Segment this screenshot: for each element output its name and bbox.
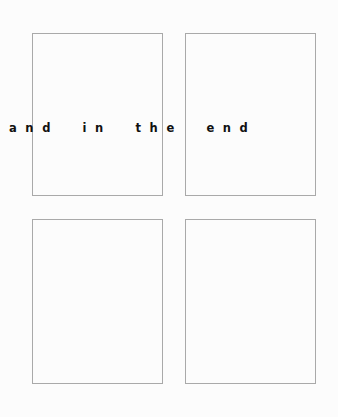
panel-top-right (185, 33, 316, 196)
panel-bottom-right (185, 219, 316, 384)
artwork-canvas: and in the end (0, 0, 338, 417)
panel-bottom-left (32, 219, 163, 384)
panel-top-left (32, 33, 163, 196)
panel-grid (0, 0, 338, 417)
